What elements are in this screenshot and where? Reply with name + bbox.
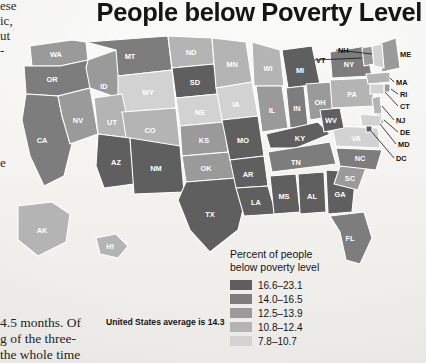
legend-title-line2: below poverty level	[230, 261, 350, 274]
state-label-nd: ND	[186, 48, 197, 57]
state-label-nm: NM	[150, 164, 162, 173]
state-label-nc: NC	[355, 154, 366, 163]
legend-item: 10.8–12.4	[230, 320, 350, 334]
state-label-ny: NY	[344, 60, 354, 69]
legend-swatch	[230, 308, 252, 318]
state-label-mt: MT	[125, 52, 136, 61]
legend-title: Percent of people below poverty level	[230, 248, 350, 274]
state-ma[interactable]	[366, 72, 390, 84]
state-label-sc: SC	[345, 174, 356, 183]
state-label-ak: AK	[37, 226, 48, 235]
book-bottom-line: 4.5 months. Of	[0, 315, 81, 331]
state-label-oh: OH	[314, 98, 325, 107]
legend-item: 7.8–10.7	[230, 334, 350, 348]
us-choropleth-map: WAORCANVIDMTWYUTCOAZNMNDSDNEKSOKTXMNIAMO…	[0, 16, 426, 284]
state-label-mi: MI	[296, 66, 304, 75]
state-label-ma: MA	[396, 78, 408, 87]
legend-range-label: 7.8–10.7	[258, 336, 297, 347]
state-label-wy: WY	[142, 88, 154, 97]
state-label-in: IN	[293, 104, 300, 113]
state-md[interactable]	[360, 114, 382, 126]
book-bottom-line: g of the three-	[0, 331, 81, 347]
legend-range-label: 14.0–16.5	[258, 294, 303, 305]
state-label-mo: MO	[237, 136, 249, 145]
state-label-or: OR	[46, 75, 58, 84]
legend-item: 14.0–16.5	[230, 292, 350, 306]
state-nh[interactable]	[372, 44, 384, 68]
legend-title-line1: Percent of people	[230, 248, 350, 261]
map-legend: Percent of people below poverty level 16…	[230, 248, 350, 348]
legend-item: 12.5–13.9	[230, 306, 350, 320]
state-label-az: AZ	[111, 158, 121, 167]
state-label-ia: IA	[232, 100, 240, 109]
state-label-tn: TN	[291, 158, 301, 167]
state-label-hi: HI	[106, 242, 113, 251]
state-label-ks: KS	[199, 136, 209, 145]
state-label-ri: RI	[400, 90, 407, 99]
leader-line-nj	[382, 106, 394, 120]
us-average-note: United States average is 14.3	[106, 317, 224, 327]
legend-item: 16.6–23.1	[230, 278, 350, 292]
legend-range-label: 16.6–23.1	[258, 280, 303, 291]
state-label-de: DE	[400, 128, 410, 137]
state-label-pa: PA	[347, 90, 357, 99]
legend-swatch	[230, 336, 252, 346]
state-label-ne: NE	[195, 108, 205, 117]
state-label-ms: MS	[278, 192, 289, 201]
leader-line-ri	[391, 89, 398, 94]
legend-range-label: 10.8–12.4	[258, 322, 303, 333]
leader-line-md	[380, 124, 396, 144]
state-label-nv: NV	[73, 116, 83, 125]
state-label-wa: WA	[50, 50, 63, 59]
leader-line-ct	[385, 92, 398, 106]
state-label-md: MD	[398, 140, 410, 149]
state-label-id: ID	[100, 82, 108, 91]
state-label-fl: FL	[345, 234, 355, 243]
state-label-al: AL	[307, 192, 317, 201]
legend-swatch	[230, 322, 252, 332]
state-ct[interactable]	[370, 84, 384, 94]
book-bottom-line: the whole time	[0, 347, 81, 363]
state-label-tx: TX	[205, 210, 215, 219]
leader-line-ma	[390, 78, 394, 82]
state-label-nj: NJ	[396, 116, 405, 125]
state-label-me: ME	[400, 50, 411, 59]
state-ri[interactable]	[384, 84, 390, 92]
state-label-ar: AR	[243, 170, 254, 179]
state-label-sd: SD	[190, 78, 201, 87]
state-label-ct: CT	[400, 102, 410, 111]
state-label-ok: OK	[200, 164, 212, 173]
legend-swatch	[230, 280, 252, 290]
state-label-va: VA	[351, 134, 361, 143]
state-label-ga: GA	[334, 190, 346, 199]
state-label-mn: MN	[226, 60, 238, 69]
legend-range-label: 12.5–13.9	[258, 308, 303, 319]
state-label-ut: UT	[107, 118, 117, 127]
legend-swatch	[230, 294, 252, 304]
state-label-wv: WV	[325, 116, 337, 125]
state-label-co: CO	[144, 126, 155, 135]
legend-rows: 16.6–23.114.0–16.512.5–13.910.8–12.47.8–…	[230, 278, 350, 348]
poverty-map-page: ese ic, ut - e People below Poverty Leve…	[0, 0, 426, 363]
state-label-ky: KY	[295, 134, 305, 143]
book-bottom-text: 4.5 months. Of g of the three- the whole…	[0, 315, 81, 363]
state-label-dc: DC	[396, 154, 407, 163]
state-nj[interactable]	[372, 96, 382, 114]
state-label-la: LA	[251, 198, 262, 207]
state-label-il: IL	[269, 106, 276, 115]
state-label-ca: CA	[37, 136, 48, 145]
book-text-fragment: ese	[0, 0, 17, 13]
state-label-wi: WI	[263, 64, 272, 73]
